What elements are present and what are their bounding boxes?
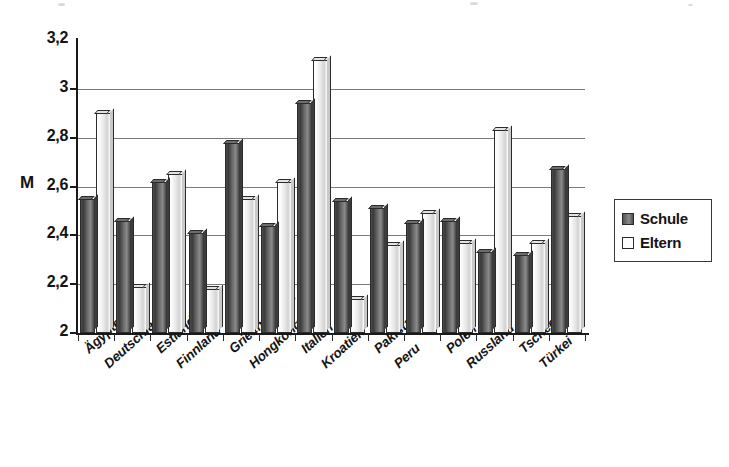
bar-eltern[interactable] bbox=[132, 287, 147, 333]
bar-side-face bbox=[291, 177, 295, 330]
bar-side-face bbox=[255, 194, 259, 330]
y-axis-tick-mark bbox=[70, 88, 78, 90]
bar-top-face bbox=[492, 127, 509, 131]
bar-top-face bbox=[295, 100, 312, 104]
bar-group bbox=[223, 40, 259, 333]
bar-side-face bbox=[492, 248, 496, 330]
bar-top-face bbox=[476, 249, 493, 253]
bar-schule[interactable] bbox=[80, 199, 95, 333]
bar-schule[interactable] bbox=[478, 252, 493, 333]
bar-side-face bbox=[219, 284, 223, 330]
bar-schule[interactable] bbox=[370, 208, 385, 333]
x-axis-tick-mark bbox=[187, 334, 188, 341]
x-axis-tick-mark bbox=[368, 334, 369, 341]
bar-top-face bbox=[513, 252, 530, 256]
bar-schule[interactable] bbox=[261, 226, 276, 333]
y-axis-tick-label: 3 bbox=[59, 78, 68, 96]
bar-schule[interactable] bbox=[116, 221, 131, 333]
bar-eltern[interactable] bbox=[168, 174, 183, 333]
bar-top-face bbox=[187, 230, 204, 234]
bar-side-face bbox=[436, 209, 440, 330]
bar-top-face bbox=[166, 171, 183, 175]
x-axis-tick-mark bbox=[404, 334, 405, 341]
bar-side-face bbox=[581, 211, 585, 330]
bar-eltern[interactable] bbox=[241, 199, 256, 333]
bar-top-face bbox=[529, 240, 546, 244]
x-axis-category-label: Türkei bbox=[536, 334, 575, 371]
x-axis-tick-mark bbox=[114, 334, 115, 341]
bar-side-face bbox=[239, 138, 243, 330]
x-axis-tick-mark bbox=[440, 334, 441, 341]
bar-side-face bbox=[364, 294, 368, 330]
bar-side-face bbox=[110, 109, 114, 330]
x-axis-tick-mark bbox=[332, 334, 333, 341]
y-axis-tick-label: 3,2 bbox=[47, 29, 68, 47]
bar-group bbox=[114, 40, 150, 333]
bar-eltern[interactable] bbox=[277, 182, 292, 333]
x-axis-tick-mark bbox=[549, 334, 550, 341]
bar-schule[interactable] bbox=[297, 103, 312, 333]
bar-side-face bbox=[166, 177, 170, 330]
bar-group bbox=[368, 40, 404, 333]
bar-group bbox=[404, 40, 440, 333]
bar-eltern[interactable] bbox=[567, 216, 582, 333]
y-axis-tick-label: 2,2 bbox=[47, 273, 68, 291]
x-axis-tick-mark bbox=[78, 334, 79, 341]
scan-artifact bbox=[688, 4, 693, 6]
x-axis-tick-mark bbox=[223, 334, 224, 341]
bar-side-face bbox=[275, 221, 279, 330]
bar-side-face bbox=[311, 99, 315, 330]
bar-eltern[interactable] bbox=[422, 213, 437, 333]
bar-group bbox=[150, 40, 186, 333]
y-axis-tick-label: 2,4 bbox=[47, 224, 68, 242]
x-axis-tick-mark bbox=[476, 334, 477, 341]
bar-schule[interactable] bbox=[189, 233, 204, 333]
bar-side-face bbox=[182, 170, 186, 330]
bar-schule[interactable] bbox=[334, 201, 349, 333]
bar-schule[interactable] bbox=[515, 255, 530, 333]
bar-group bbox=[332, 40, 368, 333]
bar-eltern[interactable] bbox=[313, 60, 328, 333]
y-axis-tick-mark bbox=[70, 332, 78, 334]
bar-side-face bbox=[545, 238, 549, 330]
bar-top-face bbox=[94, 110, 111, 114]
bar-top-face bbox=[368, 205, 385, 209]
legend-label-schule: Schule bbox=[640, 210, 688, 227]
legend-item-eltern[interactable]: Eltern bbox=[622, 234, 705, 251]
y-axis-tick-label: 2,8 bbox=[47, 127, 68, 145]
bar-schule[interactable] bbox=[152, 182, 167, 333]
x-axis-tick-mark bbox=[259, 334, 260, 341]
y-axis-tick-mark bbox=[70, 186, 78, 188]
y-axis-tick-labels: 22,22,42,62,833,2 bbox=[0, 0, 68, 467]
bar-top-face bbox=[150, 179, 167, 183]
bar-eltern[interactable] bbox=[96, 113, 111, 333]
bar-side-face bbox=[400, 241, 404, 330]
bar-schule[interactable] bbox=[551, 169, 566, 333]
x-axis-category-label: Peru bbox=[391, 340, 423, 371]
y-axis-tick-mark bbox=[70, 137, 78, 139]
bar-group bbox=[187, 40, 223, 333]
plot-area bbox=[78, 40, 585, 333]
y-axis-tick-mark bbox=[70, 283, 78, 285]
x-axis-tick-mark bbox=[295, 334, 296, 341]
bar-schule[interactable] bbox=[442, 221, 457, 333]
bar-schule[interactable] bbox=[406, 223, 421, 333]
bar-eltern[interactable] bbox=[494, 130, 509, 333]
bar-group bbox=[476, 40, 512, 333]
legend-label-eltern: Eltern bbox=[640, 234, 681, 251]
bar-side-face bbox=[420, 219, 424, 330]
bar-top-face bbox=[311, 57, 328, 61]
x-axis-tick-mark bbox=[150, 334, 151, 341]
y-axis-tick-label: 2,6 bbox=[47, 176, 68, 194]
bar-side-face bbox=[384, 204, 388, 330]
bar-top-face bbox=[404, 220, 421, 224]
legend-item-schule[interactable]: Schule bbox=[622, 210, 705, 227]
bar-schule[interactable] bbox=[225, 143, 240, 333]
bar-group bbox=[295, 40, 331, 333]
bar-side-face bbox=[565, 165, 569, 330]
bar-top-face bbox=[259, 223, 276, 227]
legend[interactable]: Schule Eltern bbox=[614, 199, 712, 262]
bar-top-face bbox=[332, 198, 349, 202]
bar-eltern[interactable] bbox=[458, 243, 473, 333]
bar-top-face bbox=[420, 210, 437, 214]
